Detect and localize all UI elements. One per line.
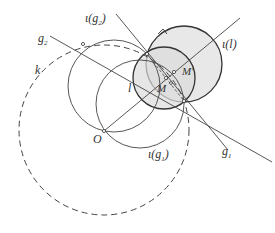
point-P1 (145, 52, 148, 55)
label-iota-l: ι(l) (222, 38, 237, 50)
point-M (164, 76, 167, 79)
point-g2-k (81, 42, 84, 45)
label-k: k (35, 64, 40, 76)
label-iota-g2: ι(g2) (85, 12, 106, 27)
point-M-prime (172, 70, 175, 73)
label-M: M (157, 83, 166, 94)
diagram-canvas: g2 ι(g2) k l M M' ι(l) O ι(g1) g1 (0, 0, 275, 233)
point-mid (170, 82, 173, 85)
label-g2: g2 (38, 32, 48, 47)
label-O: O (93, 133, 102, 145)
point-P2 (182, 99, 185, 102)
label-l: l (128, 82, 131, 94)
label-M-prime: M' (182, 66, 194, 77)
point-O (102, 129, 105, 132)
label-iota-g1: ι(g1) (148, 148, 169, 163)
label-g1: g1 (222, 145, 232, 160)
